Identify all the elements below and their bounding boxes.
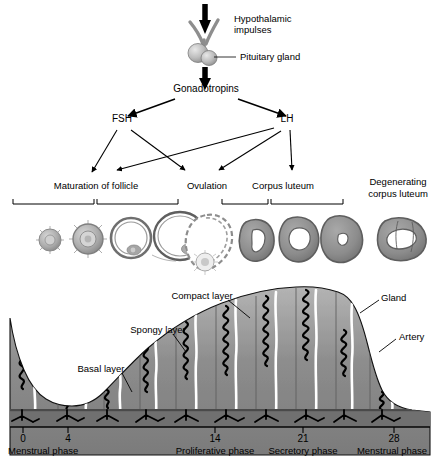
follicle-stage-2 [69, 220, 107, 258]
day-tick-14: 14 [209, 433, 220, 444]
corpus-luteum-stage-2 [279, 217, 319, 262]
phase-label-proliferative: Proliferative phase [176, 445, 255, 456]
hypothalamic-impulses-label: Hypothalamic impulses [234, 13, 292, 35]
pituitary-gland-label: Pituitary gland [240, 51, 300, 62]
gonadotropins-to-lh-arrow [238, 99, 286, 116]
basal-layer-label: Basal layer [78, 363, 125, 374]
follicle-stage-3 [111, 218, 151, 258]
gland-label: Gland [381, 292, 406, 303]
stage-brackets [13, 199, 343, 204]
day-tick-4: 4 [65, 433, 71, 444]
corpus-luteum-stage-3 [321, 216, 363, 263]
pituitary-gland-illustration [188, 20, 236, 66]
day-tick-0: 0 [20, 433, 26, 444]
artery-label: Artery [399, 331, 424, 342]
phase-label-secretory: Secretory phase [268, 445, 337, 456]
day-tick-28: 28 [388, 433, 399, 444]
fsh-to-follicle-arrow [92, 130, 117, 172]
phase-label-menstrual-2: Menstrual phase [357, 445, 427, 456]
ovulation-label: Ovulation [187, 180, 227, 191]
lh-label: LH [281, 113, 294, 124]
corpus-luteum-label: Corpus luteum [252, 180, 314, 191]
degenerating-corpus-luteum-label-line1: Degenerating [369, 176, 426, 187]
phase-label-menstrual-1: Menstrual phase [8, 445, 78, 456]
ovulation-illustration [186, 215, 232, 275]
gonadotropins-to-fsh-arrow [128, 99, 175, 116]
maturation-of-follicle-label: Maturation of follicle [54, 180, 138, 191]
day-tick-21: 21 [297, 433, 308, 444]
lh-to-corpus-luteum-arrow [290, 130, 292, 170]
figure-canvas: Hypothalamic impulses Pituitary gland Go… [0, 0, 440, 458]
corpus-luteum-stage-1 [239, 220, 274, 262]
figure-vector-layer [0, 0, 440, 458]
fsh-label: FSH [112, 113, 132, 124]
endometrium-diagram [0, 287, 440, 455]
degenerating-corpus-luteum-label-line2: corpus luteum [368, 188, 428, 199]
gonadotropins-label: Gonadotropins [173, 83, 239, 94]
spongy-layer-label: Spongy layer [130, 324, 185, 335]
degenerating-corpus-luteum-illustration [378, 218, 427, 261]
lh-to-ovulation-arrow [219, 131, 281, 170]
follicle-stage-1 [36, 226, 64, 254]
lh-to-follicle-arrow [117, 128, 274, 170]
hypothalamic-input-arrow [199, 4, 211, 34]
compact-layer-label: Compact layer [171, 290, 232, 301]
